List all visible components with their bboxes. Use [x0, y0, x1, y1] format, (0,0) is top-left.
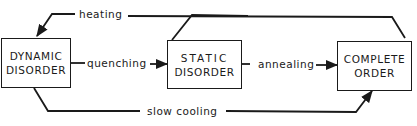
edge-label-heating: heating	[77, 8, 124, 20]
edge-label-annealing: annealing	[256, 58, 316, 70]
edge-label-quenching: quenching	[85, 57, 149, 69]
edge-label-slow-cooling: slow cooling	[145, 105, 220, 117]
node-static-disorder: STATIC DISORDER	[167, 40, 242, 89]
node-label: STATIC	[181, 51, 228, 65]
node-label: DISORDER	[6, 63, 66, 77]
node-label: COMPLETE	[344, 52, 405, 66]
node-complete-order: COMPLETE ORDER	[337, 41, 412, 91]
heating-arrow	[172, 15, 248, 40]
node-label: ORDER	[354, 66, 395, 80]
node-dynamic-disorder: DYNAMIC DISORDER	[1, 38, 71, 88]
node-label: DISORDER	[174, 65, 234, 79]
node-label: DYNAMIC	[10, 49, 63, 63]
